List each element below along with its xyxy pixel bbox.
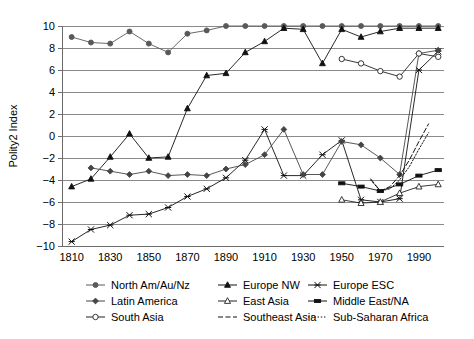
- x-tick-label: 1870: [175, 251, 199, 263]
- marker-filled-rect: [435, 169, 441, 172]
- x-tick-label: 1810: [59, 251, 83, 263]
- marker-open-circle: [93, 314, 98, 319]
- y-axis-title-group: Polity2 Index: [7, 104, 19, 167]
- y-tick-label: 8: [49, 42, 55, 54]
- marker-filled-circle: [320, 24, 325, 29]
- marker-filled-circle: [127, 29, 132, 34]
- marker-open-circle: [397, 74, 402, 79]
- x-tick-label: 1830: [98, 251, 122, 263]
- x-tick-label: 1970: [368, 251, 392, 263]
- marker-filled-circle: [88, 40, 93, 45]
- x-tick-label: 1890: [214, 251, 238, 263]
- y-tick-label: −8: [42, 218, 55, 230]
- y-tick-label: 2: [49, 108, 55, 120]
- x-tick-label: 1930: [291, 251, 315, 263]
- marker-filled-circle: [223, 24, 228, 29]
- marker-open-circle: [339, 56, 344, 61]
- x-tick-label: 1990: [407, 251, 431, 263]
- y-tick-label: −2: [42, 152, 55, 164]
- legend-label: Southeast Asia: [243, 311, 317, 323]
- y-tick-label: −4: [42, 174, 55, 186]
- marker-open-circle: [358, 61, 363, 66]
- marker-filled-rect: [339, 182, 345, 185]
- marker-filled-rect: [416, 174, 422, 177]
- marker-filled-circle: [166, 50, 171, 55]
- legend-label: Europe ESC: [333, 279, 394, 291]
- x-tick-label: 1910: [252, 251, 276, 263]
- legend-label: Middle East/NA: [333, 295, 409, 307]
- legend-label: Latin America: [111, 295, 179, 307]
- legend-label: East Asia: [243, 295, 290, 307]
- y-tick-label: 0: [49, 130, 55, 142]
- chart-container: −10−8−6−4−20246810 181018301850187018901…: [0, 0, 474, 339]
- marker-open-circle: [416, 51, 421, 56]
- marker-filled-circle: [243, 24, 248, 29]
- y-tick-label: −6: [42, 196, 55, 208]
- polity2-index-line-chart: −10−8−6−4−20246810 181018301850187018901…: [0, 0, 474, 339]
- x-tick-label: 1950: [330, 251, 354, 263]
- marker-filled-circle: [262, 24, 267, 29]
- x-tick-label: 1850: [137, 251, 161, 263]
- legend-label: South Asia: [111, 311, 164, 323]
- legend-group: North Am/Au/NzEurope NWEurope ESCLatin A…: [86, 279, 429, 323]
- marker-open-circle: [378, 68, 383, 73]
- legend-label: Sub-Saharan Africa: [333, 311, 429, 323]
- y-tick-label: 10: [43, 20, 55, 32]
- y-tick-label: 6: [49, 64, 55, 76]
- marker-filled-rect: [358, 185, 364, 188]
- marker-filled-circle: [204, 28, 209, 33]
- marker-filled-circle: [185, 31, 190, 36]
- y-tick-label: 4: [49, 86, 55, 98]
- marker-filled-rect: [397, 183, 403, 186]
- y-axis-title: Polity2 Index: [7, 104, 19, 167]
- marker-filled-circle: [93, 283, 98, 288]
- marker-filled-rect: [314, 300, 320, 303]
- marker-filled-circle: [108, 41, 113, 46]
- marker-filled-circle: [146, 41, 151, 46]
- legend-label: Europe NW: [243, 279, 300, 291]
- marker-open-circle: [436, 54, 441, 59]
- y-tick-label: −10: [36, 240, 55, 252]
- legend-label: North Am/Au/Nz: [111, 279, 190, 291]
- marker-filled-circle: [69, 35, 74, 40]
- marker-filled-circle: [359, 24, 364, 29]
